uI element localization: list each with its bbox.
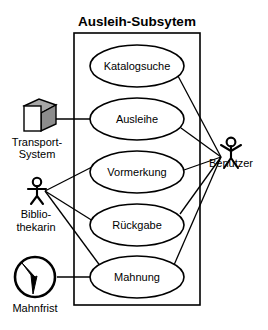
use-case-vormerkung[interactable]: Vormerkung [90,151,184,193]
use-case-label: Vormerkung [107,166,166,178]
use-case-katalogsuche[interactable]: Katalogsuche [90,45,184,87]
use-case-label: Ausleihe [116,113,158,125]
actor-transport-system[interactable]: Transport- System [12,99,63,160]
use-case-label: Rückgabe [112,219,162,231]
actor-label-line-1: Benutzer [209,157,253,169]
use-case-ausleihe[interactable]: Ausleihe [90,98,184,140]
use-case-label: Mahnung [114,271,160,283]
use-case-mahnung[interactable]: Mahnung [90,256,184,298]
stick-figure-icon [28,178,46,204]
cube-icon [24,99,56,131]
assoc-bibliothekarin-vormerkung [45,167,92,191]
assoc-bibliothekarin-rueckgabe [45,191,93,221]
actor-label-line-1: Transport- [12,136,63,148]
use-case-label: Katalogsuche [104,60,171,72]
actor-label-line-2: thekarin [16,221,55,233]
actor-bibliothekarin[interactable]: Biblio- thekarin [16,178,55,233]
diagram-canvas: Ausleih-Subsytem Katalogsuche [0,0,268,330]
use-case-rueckgabe[interactable]: Rückgabe [90,204,184,246]
actor-label-line-1: Mahnfrist [12,302,57,314]
actor-mahnfrist[interactable]: Mahnfrist [12,257,57,314]
actor-label-line-1: Biblio- [21,208,52,220]
system-title: Ausleih-Subsytem [78,14,196,29]
clock-icon [15,257,55,297]
use-case-diagram: Ausleih-Subsytem Katalogsuche [0,0,268,330]
actor-label-line-2: System [19,148,56,160]
assoc-benutzer-ausleihe [181,128,221,157]
